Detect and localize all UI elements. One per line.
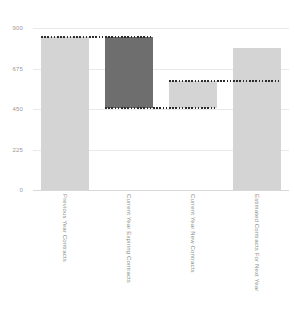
- waterfall-chart: 0225450675900 Previous Year ContractsCur…: [0, 0, 294, 312]
- x-axis-category-labels: Previous Year ContractsCurrent Year Expi…: [33, 192, 289, 310]
- x-axis-label-slot: Current Year Expiring Contracts: [97, 192, 161, 310]
- x-axis-category-label: Estimated Contracts For Next Year: [254, 194, 260, 291]
- x-axis-label-slot: Current Year New Contracts: [161, 192, 225, 310]
- x-axis-label-slot: Previous Year Contracts: [33, 192, 97, 310]
- gridline-0: [33, 190, 289, 191]
- x-axis-category-label: Current Year New Contracts: [190, 194, 196, 273]
- bar-decrease[interactable]: [105, 37, 153, 108]
- waterfall-connector: [169, 80, 281, 82]
- gridline-900: [33, 28, 289, 29]
- y-tick-label: 0: [0, 187, 23, 193]
- x-axis-label-slot: Estimated Contracts For Next Year: [225, 192, 289, 310]
- waterfall-connector: [41, 36, 153, 38]
- y-tick-label: 675: [0, 66, 23, 72]
- waterfall-connector: [105, 107, 217, 109]
- y-tick-label: 450: [0, 106, 23, 112]
- bar-increase[interactable]: [169, 81, 217, 108]
- y-tick-label: 900: [0, 25, 23, 31]
- bar-total[interactable]: [41, 37, 89, 190]
- x-axis-category-label: Previous Year Contracts: [62, 194, 68, 262]
- y-tick-label: 225: [0, 147, 23, 153]
- x-axis-category-label: Current Year Expiring Contracts: [126, 194, 132, 283]
- bar-total[interactable]: [233, 48, 281, 190]
- plot-area: 0225450675900: [33, 28, 289, 190]
